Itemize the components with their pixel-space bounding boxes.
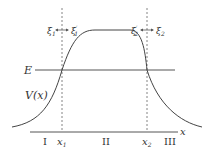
svg-text:x2: x2 xyxy=(142,136,152,148)
region-I-label: I xyxy=(43,136,47,147)
axis-label: x xyxy=(180,126,186,137)
region-III-label: III xyxy=(164,136,176,147)
svg-text:ξ′2: ξ′2 xyxy=(131,24,138,37)
svg-text:x1: x1 xyxy=(57,136,66,148)
region-II-label: II xyxy=(102,136,110,147)
svg-text:ξ′1: ξ′1 xyxy=(71,24,78,37)
potential-label: V(x) xyxy=(25,89,48,102)
svg-text:ξ1: ξ1 xyxy=(47,26,56,37)
potential-barrier-diagram: ξ1 ξ′1 ξ′2 ξ2 E V(x) x x1 x2 I II III xyxy=(0,0,213,153)
energy-label: E xyxy=(23,64,32,77)
potential-curve xyxy=(12,30,202,127)
svg-text:ξ2: ξ2 xyxy=(156,26,165,37)
